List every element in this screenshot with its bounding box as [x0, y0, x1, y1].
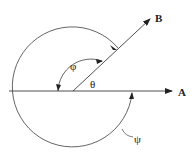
label-psi: ψ — [134, 133, 141, 145]
psi-arrow-head-a — [129, 92, 134, 99]
angle-diagram: B A θ φ ψ — [0, 0, 195, 156]
label-phi: φ — [70, 60, 76, 72]
phi-arrow-head-axis — [56, 84, 61, 91]
psi-arc — [12, 27, 132, 147]
phi-arrow-head-b — [96, 59, 103, 64]
label-a: A — [178, 86, 186, 98]
label-theta: θ — [90, 78, 95, 90]
ray-b-line — [73, 19, 150, 91]
psi-leader — [122, 129, 133, 137]
label-b: B — [155, 12, 163, 24]
phi-arc — [58, 59, 102, 91]
